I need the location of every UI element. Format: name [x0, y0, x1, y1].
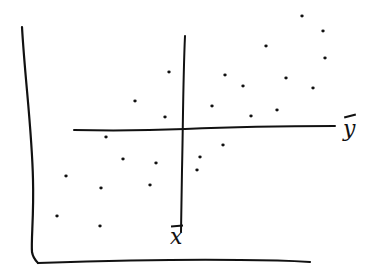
data-point [167, 71, 170, 74]
data-point [275, 109, 278, 112]
data-point [99, 187, 102, 190]
data-point [133, 100, 136, 103]
mean-x-label: x [170, 226, 182, 248]
data-point [104, 136, 107, 139]
data-point [284, 77, 287, 80]
data-point [195, 169, 198, 172]
reference-lines [74, 36, 335, 232]
data-point [311, 87, 314, 90]
data-points [55, 15, 326, 228]
data-point [64, 175, 67, 178]
data-point [163, 116, 166, 119]
data-point [241, 85, 244, 88]
scatter-plot [0, 0, 376, 277]
data-point [300, 15, 303, 18]
data-point [321, 30, 324, 33]
data-point [148, 184, 151, 187]
axes [22, 27, 310, 263]
data-point [210, 105, 213, 108]
data-point [55, 215, 58, 218]
y-axis-line [22, 27, 38, 263]
data-point [198, 156, 201, 159]
data-point [221, 144, 224, 147]
mean-y-label: y [343, 118, 355, 140]
data-point [121, 158, 124, 161]
mean-y-line [74, 126, 335, 130]
data-point [264, 45, 267, 48]
data-point [223, 74, 226, 77]
data-point [154, 162, 157, 165]
mean-x-line [181, 36, 185, 232]
x-axis-line [38, 260, 310, 263]
data-point [98, 225, 101, 228]
data-point [249, 115, 252, 118]
data-point [323, 57, 326, 60]
